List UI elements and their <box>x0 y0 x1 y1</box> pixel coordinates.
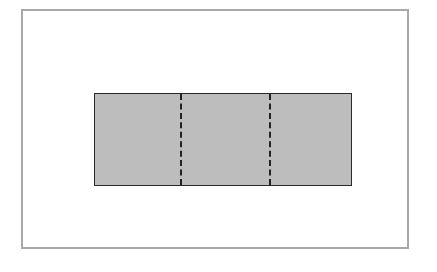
divided-rectangle <box>94 93 352 186</box>
dashed-divider-1 <box>180 94 182 185</box>
dashed-divider-2 <box>269 94 271 185</box>
